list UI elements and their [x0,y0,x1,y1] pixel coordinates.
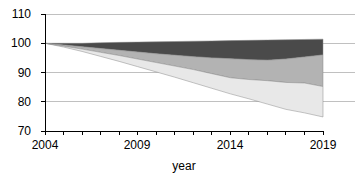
area-bands-group [45,39,323,117]
chart-container: 110 100 90 80 70 2004 2009 2014 2019 yea… [0,0,358,185]
plot-area [0,0,358,185]
